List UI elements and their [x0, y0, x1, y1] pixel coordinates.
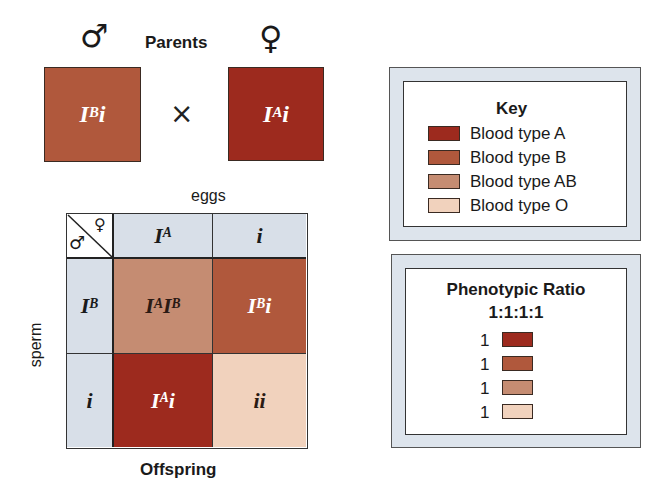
ratio-swatch-a [502, 332, 533, 347]
parents-title: Parents [145, 34, 207, 51]
female-parent-genotype: IAi [228, 67, 324, 161]
allele-b: i [260, 388, 266, 414]
male-allele-1: I [80, 101, 89, 128]
male-allele-2: i [99, 101, 106, 128]
male-symbol-icon: ♂ [69, 234, 85, 252]
key-label-o: Blood type O [470, 197, 568, 214]
ratio-count-b: 1 [480, 356, 489, 373]
ratio-swatch-b [502, 356, 533, 371]
offspring-cell-A: IAi [114, 354, 213, 447]
cross-icon: × [170, 100, 193, 128]
offspring-cell-O: ii [213, 354, 306, 447]
key-swatch-a [428, 126, 460, 141]
egg-allele-base: I [154, 223, 163, 249]
sperm-label: sperm [28, 323, 44, 367]
ratio-count-ab: 1 [480, 380, 489, 397]
eggs-label: eggs [191, 188, 226, 204]
female-allele-1: I [263, 101, 272, 128]
ratio-swatch-o [502, 404, 533, 419]
punnett-square: ♀ ♂ IA i IB i IAIB IBi IAi ii [66, 213, 308, 449]
key-swatch-o [428, 198, 460, 213]
punnett-corner: ♀ ♂ [67, 214, 114, 259]
female-symbol-icon: ♀ [259, 22, 282, 54]
ratio-count-o: 1 [480, 404, 489, 421]
female-allele-2: i [282, 101, 289, 128]
male-symbol-icon: ♂ [80, 20, 109, 52]
key-label-a: Blood type A [470, 125, 565, 142]
allele-a: I [151, 388, 160, 414]
offspring-label: Offspring [140, 461, 217, 478]
egg-allele-base: i [256, 223, 262, 249]
allele-b: i [169, 388, 175, 414]
ratio-value: 1:1:1:1 [0, 304, 664, 321]
ratio-swatch-ab [502, 380, 533, 395]
key-swatch-ab [428, 174, 460, 189]
ratio-title: Phenotypic Ratio [0, 281, 664, 298]
key-label-ab: Blood type AB [470, 173, 577, 190]
sperm-allele-2: i [67, 354, 114, 447]
key-swatch-b [428, 150, 460, 165]
key-title: Key [496, 100, 527, 117]
egg-allele-1: IA [114, 214, 213, 259]
male-parent-genotype: IBi [44, 67, 141, 162]
egg-allele-2: i [213, 214, 306, 259]
ratio-count-a: 1 [480, 332, 489, 349]
key-label-b: Blood type B [470, 149, 566, 166]
female-symbol-icon: ♀ [94, 217, 106, 233]
sperm-allele-base: i [86, 388, 92, 414]
